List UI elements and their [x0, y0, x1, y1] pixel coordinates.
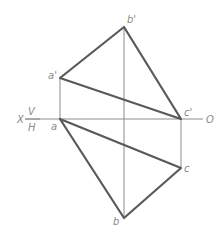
point-label-c: c [184, 163, 190, 174]
front-projection-triangle [60, 27, 181, 119]
top-projection-triangle [60, 119, 181, 218]
plane-label-h: H [28, 122, 36, 133]
plane-label-v: V [28, 106, 36, 117]
point-label-c-prime: c' [184, 107, 192, 118]
point-label-a-prime: a' [48, 70, 57, 81]
point-label-a: a [51, 121, 57, 132]
projection-diagram: X V H O a' b' c' a b c [0, 0, 220, 238]
point-label-b: b [113, 216, 119, 227]
axis-label-o: O [206, 114, 214, 125]
point-label-b-prime: b' [127, 14, 136, 25]
axis-label-x: X [16, 114, 25, 125]
